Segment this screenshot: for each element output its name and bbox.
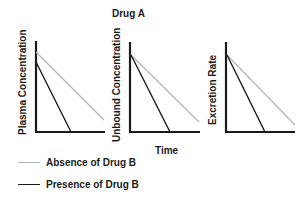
absence-line [227, 55, 295, 125]
panel-excretion-rate [225, 42, 295, 132]
absence-line [131, 55, 199, 122]
presence-line [131, 55, 170, 132]
legend-swatch-gray-line [18, 162, 40, 163]
panel-unbound-concentration [129, 42, 200, 132]
legend-item-absence: Absence of Drug B [18, 155, 136, 169]
legend-label: Absence of Drug B [46, 157, 136, 168]
legend-label: Presence of Drug B [46, 179, 139, 190]
presence-line [227, 55, 265, 132]
plot-area [0, 0, 308, 200]
legend-swatch-black-line [18, 184, 40, 185]
panel-plasma-concentration [35, 41, 105, 132]
x-axis-label: Time [155, 145, 178, 156]
presence-line [36, 62, 71, 132]
legend-item-presence: Presence of Drug B [18, 177, 139, 191]
absence-line [36, 52, 104, 120]
